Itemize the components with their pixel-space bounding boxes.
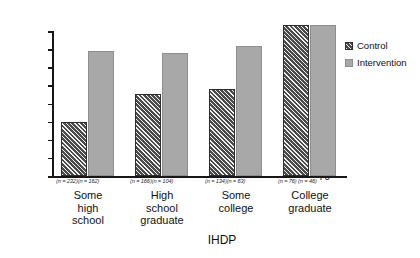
bar-control-some-college[interactable] [209, 89, 235, 176]
x-axis-title: IHDP [52, 233, 392, 247]
bar-control-some-high-school[interactable] [61, 122, 87, 176]
bar-control-college-graduate[interactable] [283, 25, 309, 176]
legend-label-intervention: Intervention [357, 57, 407, 68]
y-tick-75 [48, 158, 53, 160]
n-label-some-high-school: (n = 232)(n = 162) [56, 178, 99, 184]
category-line-1: College [267, 189, 353, 202]
bar-control-high-school-graduate[interactable] [135, 94, 161, 176]
y-tick-100 [48, 67, 53, 69]
y-tick-105 [48, 49, 53, 51]
bar-intervention-college-graduate[interactable] [310, 25, 336, 176]
bar-group-some-college [209, 25, 263, 176]
legend-swatch-intervention-icon [345, 59, 353, 67]
bar-intervention-some-college[interactable] [236, 46, 262, 177]
bar-group-high-school-graduate [135, 25, 189, 176]
bar-group-college-graduate [283, 25, 337, 176]
legend-item-intervention[interactable]: Intervention [345, 57, 407, 68]
category-label-college-graduate: College graduate [267, 189, 353, 214]
bar-group-some-high-school [61, 25, 115, 176]
y-tick-80 [48, 140, 53, 142]
n-label-some-college: (n = 134)(n = 63) [205, 178, 245, 184]
category-line-2: graduate [267, 202, 353, 215]
y-tick-70 [48, 176, 53, 178]
bar-intervention-high-school-graduate[interactable] [162, 53, 188, 176]
plot-area: 110 105 100 95 90 85 80 75 70 (n = 232)(… [52, 25, 340, 176]
y-tick-110 [48, 31, 53, 33]
bar-intervention-some-high-school[interactable] [88, 51, 114, 176]
y-tick-85 [48, 122, 53, 124]
legend-item-control[interactable]: Control [345, 40, 407, 51]
legend-swatch-control-icon [345, 42, 353, 50]
bar-chart: 110 105 100 95 90 85 80 75 70 (n = 232)(… [0, 0, 420, 258]
legend-label-control: Control [357, 40, 388, 51]
y-tick-95 [48, 85, 53, 87]
category-line-3: graduate [119, 214, 205, 227]
n-label-high-school-graduate: (n = 166)(n = 104) [130, 178, 173, 184]
chart-legend: Control Intervention [345, 40, 407, 74]
n-label-college-graduate: (n = 76) (n = 46) [278, 178, 317, 184]
y-tick-90 [48, 104, 53, 106]
